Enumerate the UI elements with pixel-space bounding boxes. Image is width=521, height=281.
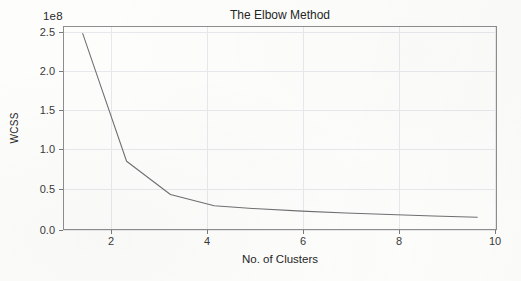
x-axis-label: No. of Clusters xyxy=(63,253,497,266)
y-axis-offset-label: 1e8 xyxy=(43,10,63,22)
x-tick-label-4: 4 xyxy=(204,236,210,247)
y-tick-label-4: 2.0 xyxy=(40,66,55,77)
gridline-horizontal-0 xyxy=(63,230,497,231)
x-tick-label-8: 8 xyxy=(396,236,402,247)
y-tick-label-2: 1.0 xyxy=(40,144,55,155)
x-tick-mark-8 xyxy=(399,230,400,234)
x-tick-mark-2 xyxy=(111,230,112,234)
y-tick-label-3: 1.5 xyxy=(40,105,55,116)
y-axis-label: WCSS xyxy=(9,112,20,143)
x-tick-mark-10 xyxy=(495,230,496,234)
y-tick-label-1: 0.5 xyxy=(40,184,55,195)
wcss-line-series xyxy=(83,34,478,218)
y-tick-mark-0 xyxy=(59,230,63,231)
x-tick-mark-6 xyxy=(303,230,304,234)
y-tick-label-0: 0.0 xyxy=(40,225,55,236)
x-tick-label-2: 2 xyxy=(108,236,114,247)
elbow-method-chart-figure: 1e8 The Elbow Method 0.0 0.5 1.0 1.5 2.0… xyxy=(0,0,521,281)
x-tick-label-10: 10 xyxy=(489,236,501,247)
data-layer xyxy=(63,26,497,230)
x-tick-mark-4 xyxy=(207,230,208,234)
x-tick-label-6: 6 xyxy=(300,236,306,247)
page-title: The Elbow Method xyxy=(63,8,497,22)
y-tick-label-5: 2.5 xyxy=(40,27,55,38)
